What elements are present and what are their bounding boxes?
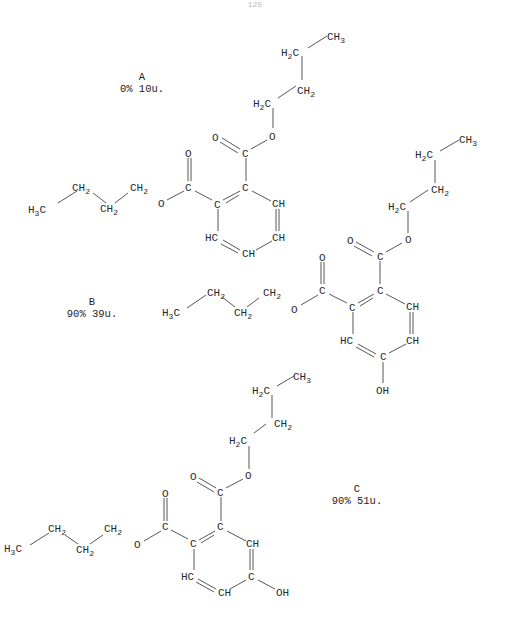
bond [301, 295, 318, 305]
compound-a: A 0% 10u. [28, 31, 345, 260]
bond [354, 246, 372, 256]
atom-ch3: CH3 [459, 134, 477, 148]
bond [201, 535, 214, 543]
bond [247, 298, 259, 307]
atom-ester-oxygen: O [291, 304, 298, 316]
atom-ch2: CH2 [76, 544, 94, 558]
bond [226, 479, 243, 488]
atom-h3c: H3C [4, 543, 22, 557]
atom-ch2: CH2 [207, 287, 225, 301]
atom-ring-carbon: C [214, 199, 221, 211]
bond [199, 478, 216, 488]
atom-ch2: CH2 [104, 523, 122, 537]
atom-ch2: CH2 [431, 184, 449, 198]
bond [90, 535, 103, 544]
atom-carbonyl-carbon: C [185, 182, 192, 194]
atom-ring-carbon: C [190, 538, 197, 550]
atom-ch2: CH2 [72, 182, 90, 196]
bond [440, 140, 459, 151]
bond [226, 195, 239, 203]
compound-c-atoms: CH3 H2C CH2 H2C O O C C C CH C CH HC OH … [4, 371, 311, 599]
atom-carbonyl-oxygen: O [162, 488, 169, 500]
bond [144, 531, 161, 541]
atom-carbonyl-oxygen: O [212, 132, 219, 144]
compound-b-caption: 90% 39u. [67, 308, 117, 320]
atom-ring-hc: HC [205, 232, 219, 244]
bond [308, 36, 327, 48]
bond [222, 138, 240, 149]
atom-carbonyl-oxygen: O [319, 252, 326, 264]
bond [356, 242, 374, 252]
bond [254, 424, 266, 433]
compound-b-title: B [89, 296, 95, 308]
atom-ring-ch: CH [272, 198, 285, 210]
atom-ring-hc: HC [181, 571, 195, 583]
bond [197, 482, 214, 492]
atom-ring-ch: CH [406, 301, 419, 313]
atom-h2c: H2C [229, 435, 247, 449]
bond [258, 580, 275, 589]
atom-ring-carbon: C [217, 521, 224, 533]
atom-ester-oxygen: O [158, 198, 165, 210]
atom-carbonyl-carbon: C [319, 285, 326, 297]
atom-h3c: H3C [162, 307, 180, 321]
bond [115, 193, 128, 203]
atom-hydroxyl: OH [376, 385, 389, 397]
bond [386, 243, 402, 252]
bond [221, 244, 238, 253]
bond [386, 294, 405, 304]
compound-c-caption: 90% 51u. [332, 495, 382, 507]
bond [195, 191, 212, 200]
atom-carbonyl-oxygen: O [185, 148, 192, 160]
atom-carbonyl-carbon: C [162, 521, 169, 533]
atom-carbonyl-carbon: C [242, 148, 249, 160]
compound-c-bonds [30, 376, 294, 592]
atom-ch2: CH2 [274, 418, 292, 432]
bond [220, 142, 238, 153]
bond [329, 294, 347, 303]
bond [410, 190, 428, 202]
bond [360, 298, 373, 306]
compound-c-title: C [354, 483, 360, 495]
bond [230, 580, 246, 589]
compound-a-atoms: CH3 H2C CH2 H2C O O C C C CH CH CH HC O … [28, 31, 345, 260]
bond [251, 140, 267, 149]
bond [256, 241, 272, 250]
atom-carbonyl-oxygen: O [347, 235, 354, 247]
atom-ring-carbon: C [377, 285, 384, 297]
atom-ch2: CH2 [130, 182, 148, 196]
bond [278, 86, 296, 98]
atom-ring-carbon: C [349, 302, 356, 314]
atom-ch2: CH2 [48, 523, 66, 537]
atom-ch2: CH2 [234, 307, 252, 321]
atom-oxygen: O [245, 470, 252, 482]
chemical-structures-diagram: 125 A 0% 10u. [0, 0, 509, 618]
atom-ring-carbon: C [248, 571, 255, 583]
bond [196, 582, 214, 592]
bond [171, 530, 188, 539]
compound-b-atoms: CH3 H2C CH2 H2C O O C C C CH CH C HC OH … [162, 134, 477, 397]
bond [187, 295, 206, 308]
bond [227, 531, 246, 541]
atom-oxygen: O [405, 234, 412, 246]
atom-ring-carbon: C [380, 351, 387, 363]
atom-ring-ch: CH [272, 232, 285, 244]
atom-carbonyl-carbon: C [217, 487, 224, 499]
bond [167, 191, 184, 200]
atom-ring-ch: CH [246, 538, 259, 550]
atom-h2c: H2C [252, 385, 270, 399]
compound-a-title: A [139, 71, 146, 83]
compound-c: C 90% 51u. [4, 371, 382, 599]
atom-ch2: CH2 [297, 85, 315, 99]
atom-ring-ch: CH [242, 248, 255, 260]
atom-h2c: H2C [281, 47, 299, 61]
compound-a-bonds [58, 36, 327, 253]
page-number: 125 [248, 0, 263, 9]
atom-ch2: CH2 [263, 287, 281, 301]
atom-carbonyl-carbon: C [377, 251, 384, 263]
atom-h2c: H2C [253, 98, 271, 112]
bond [389, 344, 406, 353]
bond [356, 347, 374, 357]
atom-ring-ch: CH [218, 587, 231, 599]
bond [252, 191, 271, 201]
